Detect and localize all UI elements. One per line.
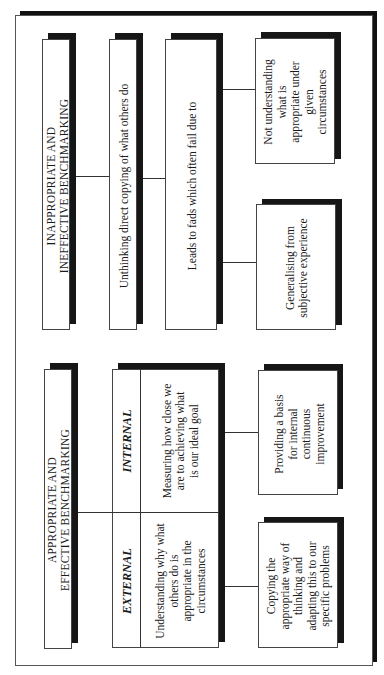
inappropriate-title-box: INAPPROPRIATE AND INEFFECTIVE BENCHMARKI… [42, 39, 70, 330]
cause1-line: circumstances [316, 59, 330, 144]
connector-step2-to-cause2 [223, 262, 256, 263]
appropriate-title-box: APPROPRIATE AND EFFECTIVE BENCHMARKING [44, 369, 72, 649]
unthinking-copying-text: Unthinking direct copying of what others… [117, 83, 131, 287]
inappropriate-title-line2: INEFFECTIVE BENCHMARKING [57, 98, 70, 272]
connector-internal-to-outcome [225, 432, 259, 433]
external-text-cell: Understanding why what others do is appr… [141, 513, 219, 648]
connector-title-to-step1 [76, 176, 110, 177]
external-text-line: others do is [167, 523, 181, 639]
external-label-cell: EXTERNAL [112, 513, 140, 648]
copying-appropriate-box: Copying the appropriate way of thinking … [258, 522, 338, 648]
connector-step2-to-cause1 [223, 89, 256, 90]
external-outcome-line: Copying the [265, 541, 279, 630]
connector-title-to-types [78, 512, 113, 513]
connector-step1-to-step2 [143, 178, 166, 179]
internal-outcome-line: continuous [299, 394, 313, 473]
internal-text-line: are to achieving what [173, 383, 187, 498]
not-understanding-box: Not understanding what is appropriate un… [255, 38, 335, 164]
internal-text-line: Measuring how close we [160, 383, 174, 498]
external-outcome-line: appropriate way of [279, 541, 293, 630]
inappropriate-title-line1: INAPPROPRIATE AND [44, 98, 57, 272]
cause2-line: subjective experience [297, 218, 311, 317]
external-label: EXTERNAL [119, 548, 134, 614]
connector-external-to-outcome [225, 586, 259, 587]
appropriate-title-line1: APPROPRIATE AND [46, 429, 59, 591]
external-outcome-line: specific problems [319, 541, 333, 630]
internal-outcome-line: improvement [313, 394, 327, 473]
external-outcome-line: adapting this to our [306, 541, 320, 630]
external-text-line: circumstances [194, 523, 208, 639]
cause1-line: appropriate under [289, 59, 303, 144]
cause1-line: what is [276, 59, 290, 144]
external-text-line: appropriate in the [180, 523, 194, 639]
internal-text-line: is our ideal goal [187, 383, 201, 498]
cause2-line: Generalising from [284, 218, 298, 317]
external-text-line: Understanding why what [153, 523, 167, 639]
internal-text-cell: Measuring how close we are to achieving … [141, 369, 219, 512]
generalising-box: Generalising from subjective experience [256, 204, 336, 330]
cause1-line: given [303, 59, 317, 144]
leads-to-fads-box: Leads to fads which often fail due to [165, 39, 217, 330]
providing-basis-box: Providing a basis for internal continuou… [258, 370, 338, 495]
cause1-line: Not understanding [262, 59, 276, 144]
leads-to-fads-text: Leads to fads which often fail due to [185, 101, 199, 269]
internal-outcome-line: Providing a basis [272, 394, 286, 473]
appropriate-title-line2: EFFECTIVE BENCHMARKING [59, 429, 72, 591]
internal-label: INTERNAL [119, 409, 134, 472]
external-outcome-line: thinking and [292, 541, 306, 630]
unthinking-copying-box: Unthinking direct copying of what others… [109, 39, 137, 330]
internal-outcome-line: for internal [286, 394, 300, 473]
internal-label-cell: INTERNAL [112, 369, 140, 512]
